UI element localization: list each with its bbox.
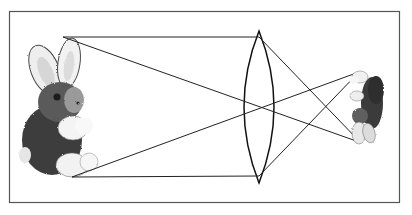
lens-diagram: Convex lens forming a real inverted imag…: [0, 0, 412, 215]
